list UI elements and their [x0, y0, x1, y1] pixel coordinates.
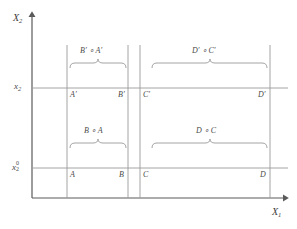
tick-label-x2: x2 [14, 82, 21, 93]
bracket-upper-right-shape [152, 59, 267, 68]
bracket-label-lower-right: D ∘ C [196, 127, 216, 135]
bracket-label-upper-left: B′ ∘ A′ [80, 47, 102, 55]
y-axis-label-sub: 2 [19, 17, 22, 24]
bracket-label-lower-left: B ∘ A [84, 127, 103, 135]
diagram-canvas [0, 0, 297, 229]
point-label-c-prime: C′ [143, 91, 150, 99]
point-label-d-prime: D′ [258, 91, 266, 99]
x-axis-label: X1 [272, 207, 281, 219]
point-label-b-prime: B′ [118, 91, 125, 99]
bracket-label-upper-right: D′ ∘ C′ [192, 47, 216, 55]
point-label-d: D [260, 171, 266, 179]
tick-label-x2-sub: 2 [18, 85, 21, 92]
bracket-upper-left-shape [70, 59, 126, 68]
y-axis-label: X2 [13, 13, 22, 25]
tick-label-x2-zero: x02 [12, 161, 19, 172]
point-label-c: C [143, 171, 148, 179]
bracket-lower-right-shape [152, 139, 267, 148]
composition-interval-diagram: X2 X1 x2 x02 A′ B′ C′ D′ A B C D B′ ∘ A′… [0, 0, 297, 229]
point-label-b: B [119, 171, 124, 179]
tick-label-x2-zero-indices: 02 [16, 161, 19, 172]
bracket-lower-left-shape [70, 139, 126, 148]
x-axis-label-sub: 1 [278, 211, 281, 218]
tick-label-x2-zero-sub: 2 [16, 167, 19, 173]
point-label-a: A [70, 171, 75, 179]
point-label-a-prime: A′ [70, 91, 77, 99]
